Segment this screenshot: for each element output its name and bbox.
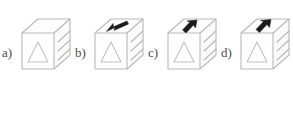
- cube-b: [91, 17, 147, 79]
- cube-d: [237, 17, 293, 79]
- option-b[interactable]: b): [73, 0, 146, 114]
- option-c[interactable]: c): [146, 0, 219, 114]
- option-a-label: a): [2, 46, 12, 59]
- cube-options-figure: a) b) c): [0, 0, 293, 114]
- option-d-label: d): [221, 46, 232, 59]
- cube-a: [18, 17, 74, 79]
- option-a[interactable]: a): [0, 0, 73, 114]
- cube-c: [164, 17, 220, 79]
- option-b-label: b): [75, 46, 86, 59]
- option-c-label: c): [148, 46, 158, 59]
- option-d[interactable]: d): [219, 0, 292, 114]
